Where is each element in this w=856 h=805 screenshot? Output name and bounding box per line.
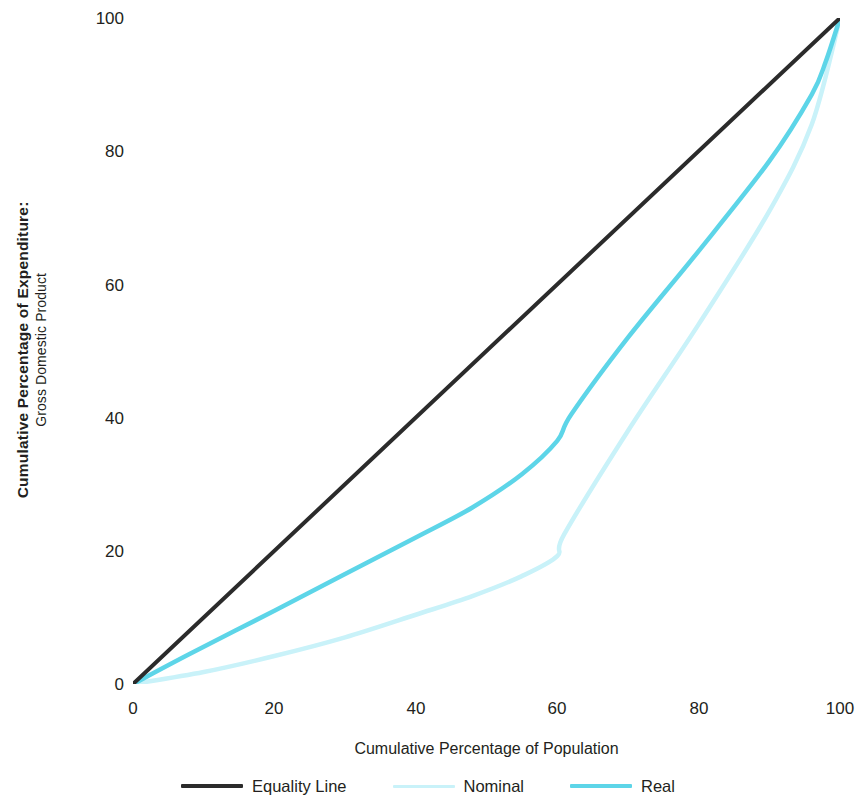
- y-tick-100: 100: [80, 10, 124, 27]
- series-line-equality: [133, 18, 840, 684]
- y-axis-tick-labels: 100 80 60 40 20 0: [62, 0, 124, 805]
- x-tick-40: 40: [407, 700, 426, 717]
- legend-item-real[interactable]: Real: [570, 778, 675, 795]
- legend-label-equality-line: Equality Line: [252, 778, 346, 795]
- chart-legend: Equality Line Nominal Real: [0, 778, 856, 795]
- y-axis-title-text: Cumulative Percentage of Expenditure: Gr…: [12, 202, 50, 499]
- legend-swatch-real: [570, 784, 632, 788]
- x-axis-title: Cumulative Percentage of Population: [133, 740, 840, 758]
- x-tick-100: 100: [826, 700, 854, 717]
- x-tick-80: 80: [690, 700, 709, 717]
- legend-item-nominal[interactable]: Nominal: [393, 778, 525, 795]
- series-group: [133, 18, 840, 684]
- legend-swatch-nominal: [393, 785, 455, 788]
- y-tick-80: 80: [80, 143, 124, 160]
- legend-label-nominal: Nominal: [464, 778, 525, 795]
- lorenz-curve-chart: Cumulative Percentage of Expenditure: Gr…: [0, 0, 856, 805]
- y-tick-60: 60: [80, 277, 124, 294]
- plot-area: [133, 18, 840, 684]
- x-tick-0: 0: [128, 700, 137, 717]
- y-tick-40: 40: [80, 410, 124, 427]
- x-tick-20: 20: [265, 700, 284, 717]
- x-axis-tick-labels: 0 20 40 60 80 100: [0, 700, 856, 726]
- plot-canvas: [133, 18, 840, 684]
- y-axis-title-sub: Gross Domestic Product: [32, 202, 50, 499]
- x-tick-60: 60: [548, 700, 567, 717]
- legend-label-real: Real: [641, 778, 675, 795]
- y-axis-title-main: Cumulative Percentage of Expenditure:: [12, 202, 32, 499]
- y-axis-title: Cumulative Percentage of Expenditure: Gr…: [0, 0, 62, 700]
- legend-item-equality-line[interactable]: Equality Line: [181, 778, 346, 795]
- y-tick-20: 20: [80, 543, 124, 560]
- y-tick-0: 0: [80, 676, 124, 693]
- legend-swatch-equality-line: [181, 784, 243, 788]
